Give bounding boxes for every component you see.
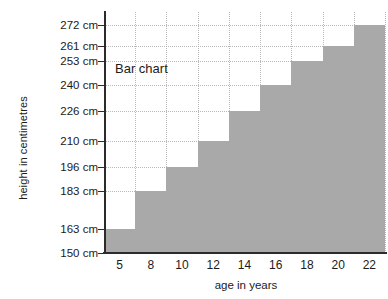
y-tick-mark (98, 141, 105, 142)
y-tick-label: 196 cm (0, 161, 98, 173)
y-tick-label: 226 cm (0, 105, 98, 117)
bar (166, 167, 197, 253)
y-tick-label: 150 cm (0, 247, 98, 259)
bar (198, 141, 229, 253)
y-axis-line (104, 11, 106, 254)
bar (354, 25, 385, 253)
y-tick-mark (98, 167, 105, 168)
x-tick-label: 22 (349, 258, 388, 272)
chart-annotation-label: Bar chart (115, 61, 168, 76)
bar-chart: height in centimetres Bar chart age in y… (0, 0, 388, 299)
bar (323, 46, 354, 253)
y-tick-label: 183 cm (0, 185, 98, 197)
gridline-vertical (385, 12, 386, 253)
x-axis-title: age in years (104, 279, 388, 291)
x-axis-line (103, 252, 387, 254)
gridline-horizontal (104, 25, 385, 26)
y-tick-label: 253 cm (0, 55, 98, 67)
bar (291, 61, 322, 253)
bar (104, 229, 135, 253)
y-tick-mark (98, 111, 105, 112)
y-tick-label: 210 cm (0, 135, 98, 147)
plot-area (104, 12, 385, 253)
bar (229, 111, 260, 253)
y-tick-mark (98, 191, 105, 192)
y-tick-mark (98, 61, 105, 62)
y-tick-mark (98, 46, 105, 47)
y-tick-mark (98, 229, 105, 230)
y-tick-mark (98, 25, 105, 26)
y-tick-mark (98, 253, 105, 254)
y-tick-label: 240 cm (0, 79, 98, 91)
bar (260, 85, 291, 253)
y-tick-label: 163 cm (0, 223, 98, 235)
bar (135, 191, 166, 253)
y-tick-label: 261 cm (0, 40, 98, 52)
y-tick-label: 272 cm (0, 19, 98, 31)
y-tick-mark (98, 85, 105, 86)
